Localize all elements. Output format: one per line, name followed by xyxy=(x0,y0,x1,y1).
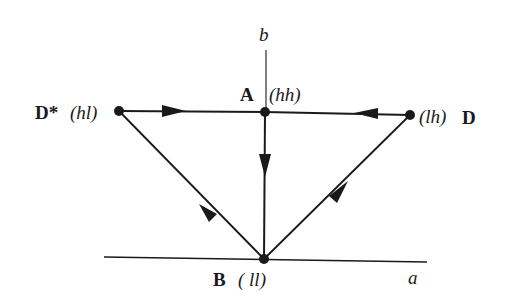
node-a-state: (hh) xyxy=(269,85,301,104)
node-a-dot xyxy=(260,107,270,117)
edge-a-to-b xyxy=(259,112,271,259)
edge-dstar-to-a xyxy=(119,105,265,117)
node-a-name: A xyxy=(240,85,254,104)
node-b-name: B xyxy=(213,270,226,289)
node-dstar-state: (hl) xyxy=(70,103,97,122)
arrow-right-icon xyxy=(162,105,186,117)
axis-a-label: a xyxy=(408,268,418,287)
arrow-up-left-icon xyxy=(199,204,217,222)
node-b-state: ( ll) xyxy=(238,270,266,289)
node-dstar-name: D* xyxy=(35,103,58,122)
edge-d-to-a xyxy=(265,108,410,119)
node-b-dot xyxy=(259,254,269,264)
diagram-canvas xyxy=(0,0,506,308)
edge-b-to-dstar xyxy=(119,111,264,259)
node-d-dot xyxy=(405,110,415,120)
arrow-left-icon xyxy=(354,108,378,119)
node-d-name: D xyxy=(462,108,476,127)
arrow-down-icon xyxy=(259,154,271,177)
node-dstar-dot xyxy=(114,106,124,116)
axis-b-label: b xyxy=(259,25,269,44)
node-d-state: (lh) xyxy=(419,107,446,126)
edge-b-to-d xyxy=(264,115,410,259)
